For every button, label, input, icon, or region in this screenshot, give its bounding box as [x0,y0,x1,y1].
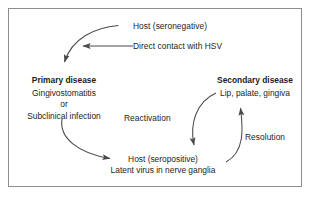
edge-label-resolution: Resolution [245,132,285,142]
node-host-seronegative: Host (seronegative) [133,21,207,31]
primary-disease-line-2: or [27,99,101,110]
node-secondary-disease: Secondary disease Lip, palate, gingiva [217,75,293,99]
node-host-seropositive: Host (seropositive) Latent virus in nerv… [111,154,216,176]
arrow-reactivation [193,93,216,145]
primary-disease-heading: Primary disease [27,75,101,86]
host-seropositive-line-2: Latent virus in nerve ganglia [111,165,216,176]
arrow-host-to-primary [65,26,119,63]
arrow-primary-to-latent [62,119,110,159]
primary-disease-line-1: Gingivostomatitis [27,88,101,99]
arrow-resolution [226,108,242,162]
secondary-disease-line-1: Lip, palate, gingiva [217,88,293,99]
node-direct-contact: Direct contact with HSV [133,41,222,51]
primary-disease-line-3: Subclinical infection [27,111,101,122]
edge-label-reactivation: Reactivation [124,113,171,123]
secondary-disease-heading: Secondary disease [217,75,293,86]
host-seropositive-line-1: Host (seropositive) [111,154,216,165]
node-primary-disease: Primary disease Gingivostomatitis or Sub… [27,75,101,122]
diagram-page: Host (seronegative) Direct contact with … [0,0,316,200]
